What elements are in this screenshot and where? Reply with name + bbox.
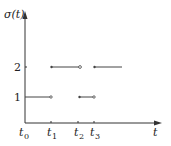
x-tick-t2: t 2 [74,126,84,141]
y-tick-2: 2 [14,61,21,74]
svg-text:0: 0 [24,132,29,141]
segment-t1-t2-level-2 [50,66,81,69]
x-axis-arrow-icon [154,121,162,126]
y-axis-label: σ(t) [4,8,25,21]
segment-t0-t1-level-1 [25,96,52,98]
x-tick-t1: t 1 [47,126,57,141]
svg-text:2: 2 [79,132,84,141]
y-tick-1: 1 [14,91,21,104]
svg-text:1: 1 [52,132,57,141]
svg-text:3: 3 [95,132,100,141]
segment-t3-onward-level-2 [93,66,122,68]
switching-signal-chart: σ(t) t 2 1 t 0 t 1 t 2 t 3 [0,0,171,146]
x-axis-label: t [153,126,158,139]
x-tick-t3: t 3 [90,126,100,141]
segment-t2-t3-level-1 [78,96,95,98]
x-tick-t0: t 0 [19,126,29,141]
